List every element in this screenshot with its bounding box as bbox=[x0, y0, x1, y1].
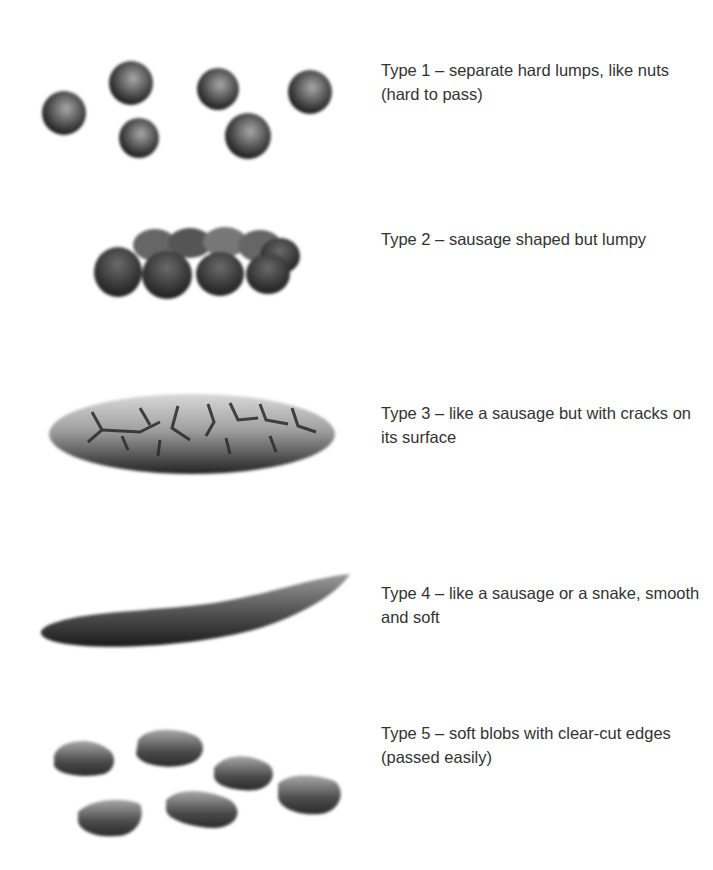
type-1-description: Type 1 – separate hard lumps, like nuts … bbox=[381, 58, 711, 106]
separate-hard-lumps-icon bbox=[0, 40, 360, 190]
type-2-description: Type 2 – sausage shaped but lumpy bbox=[381, 227, 711, 251]
stool-type-3: Type 3 – like a sausage but with cracks … bbox=[0, 370, 713, 490]
type-5-description: Type 5 – soft blobs with clear-cut edges… bbox=[381, 721, 711, 769]
cracked-sausage-icon bbox=[30, 370, 350, 490]
stool-type-4: Type 4 – like a sausage or a snake, smoo… bbox=[0, 550, 713, 660]
stool-type-2: Type 2 – sausage shaped but lumpy bbox=[0, 210, 713, 320]
lumpy-sausage-icon bbox=[60, 210, 320, 320]
stool-type-1: Type 1 – separate hard lumps, like nuts … bbox=[0, 40, 713, 190]
stool-type-5: Type 5 – soft blobs with clear-cut edges… bbox=[0, 700, 713, 850]
type-3-description: Type 3 – like a sausage but with cracks … bbox=[381, 401, 711, 449]
type-4-description: Type 4 – like a sausage or a snake, smoo… bbox=[381, 581, 711, 629]
soft-blobs-icon bbox=[30, 700, 360, 850]
smooth-snake-icon bbox=[20, 550, 360, 660]
